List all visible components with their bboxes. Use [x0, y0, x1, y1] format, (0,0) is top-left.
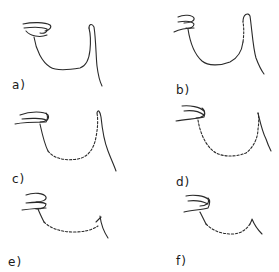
- panel-label: e): [8, 256, 22, 268]
- panel-b: b): [140, 0, 279, 90]
- panel-b-drawing: [140, 0, 279, 90]
- panel-a: a): [0, 0, 140, 90]
- panel-label: f): [176, 255, 187, 267]
- panel-d: d): [140, 95, 279, 185]
- panel-f-drawing: [140, 182, 279, 272]
- panel-c: c): [0, 95, 140, 185]
- diagram-figure: a) b) c): [0, 0, 279, 272]
- panel-e: e): [0, 182, 140, 272]
- panel-d-drawing: [140, 95, 279, 185]
- panel-f: f): [140, 182, 279, 272]
- panel-a-drawing: [0, 0, 140, 90]
- panel-label: a): [12, 79, 26, 91]
